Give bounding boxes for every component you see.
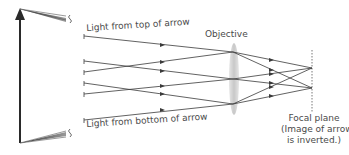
break-squiggle-icon — [69, 129, 72, 137]
focal-plane-line-3: is inverted.) — [281, 135, 347, 146]
focal-plane-line-2: (Image of arrow — [281, 124, 347, 135]
object-arrow — [15, 8, 25, 143]
top-light-cone — [20, 9, 72, 23]
focal-plane-line-1: Focal plane — [281, 113, 347, 124]
break-squiggle-icon — [69, 15, 72, 23]
bottom-light-cone — [20, 129, 72, 143]
objective-label: Objective — [205, 30, 248, 39]
focal-plane-label: Focal plane (Image of arrow is inverted.… — [281, 113, 347, 146]
light-rays — [84, 34, 312, 123]
